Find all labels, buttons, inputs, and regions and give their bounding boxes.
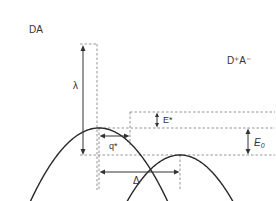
lambda-arrowhead-down — [81, 149, 86, 155]
q-arrowhead-right — [124, 134, 130, 139]
driving-force-label: E0 — [254, 137, 265, 149]
activation-arrowhead-up — [155, 113, 159, 118]
product-curve-label: D⁺A⁻ — [227, 55, 251, 66]
driving-force-arrowhead-up — [246, 129, 251, 135]
lambda-label: λ — [73, 80, 78, 91]
delta-arrowhead-right — [174, 170, 180, 175]
delta-arrowhead-left — [100, 170, 106, 175]
transition-coordinate-label: q* — [109, 141, 118, 151]
activation-arrowhead-down — [155, 123, 159, 128]
diagram-canvas: DA D⁺A⁻ λ E* q* E0 Δ — [0, 0, 276, 201]
marcus-diagram: DA D⁺A⁻ λ E* q* E0 Δ — [0, 0, 276, 201]
lambda-arrowhead-up — [81, 45, 86, 51]
reactant-curve-label: DA — [29, 24, 43, 35]
displacement-label: Δ — [133, 175, 140, 186]
activation-energy-label: E* — [163, 115, 173, 125]
driving-force-arrowhead-down — [246, 149, 251, 155]
driving-force-subscript: 0 — [261, 142, 265, 149]
q-arrowhead-left — [100, 134, 106, 139]
